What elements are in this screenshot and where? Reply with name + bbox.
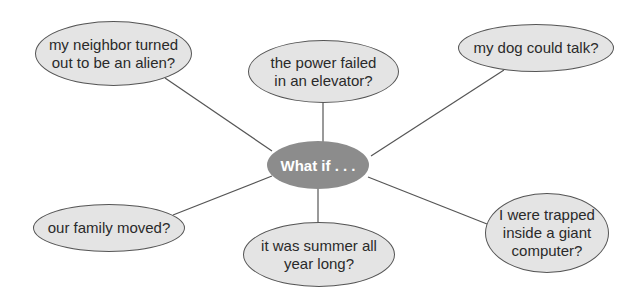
node-alien: my neighbor turned out to be an alien? xyxy=(35,21,192,86)
node-label: my neighbor turned out to be an alien? xyxy=(49,36,179,72)
line-alien xyxy=(165,78,272,151)
node-dog: my dog could talk? xyxy=(458,24,614,72)
node-label: the power failed in an elevator? xyxy=(264,54,384,90)
node-family: our family moved? xyxy=(33,204,185,252)
line-family xyxy=(173,176,272,215)
node-summer: it was summer all year long? xyxy=(243,222,395,287)
node-label: I were trapped inside a giant computer? xyxy=(499,206,595,260)
center-label: What if . . . xyxy=(281,157,356,174)
node-computer: I were trapped inside a giant computer? xyxy=(485,193,609,273)
node-elevator: the power failed in an elevator? xyxy=(248,40,399,103)
node-label: it was summer all year long? xyxy=(259,237,379,273)
line-computer xyxy=(368,177,487,224)
center-node: What if . . . xyxy=(267,141,369,189)
node-label: our family moved? xyxy=(48,219,171,237)
node-label: my dog could talk? xyxy=(473,39,598,57)
